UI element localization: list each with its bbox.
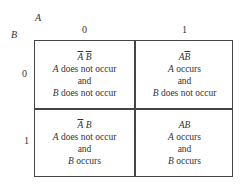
cell-line-2: and [178,75,192,87]
row-header-0: 0 [22,69,27,79]
cell-a1-b1: AB A occurs and B occurs [135,109,234,176]
cell-symbol: A B [78,51,92,63]
column-header-0: 0 [82,25,87,35]
truth-table-grid: A B A does not occur and B does not occu… [34,40,233,177]
cell-line-3: B does not occur [53,87,117,99]
cell-symbol: A B [78,119,92,131]
cell-line-3: B occurs [168,155,201,167]
row-header-1: 1 [24,136,29,146]
cell-line-2: and [178,143,192,155]
column-variable-label: A [35,13,41,23]
cell-line-1: A occurs [168,63,201,75]
row-variable-label: B [11,30,17,40]
cell-line-3: B occurs [68,155,101,167]
cell-a0-b0: A B A does not occur and B does not occu… [35,41,134,108]
cell-a0-b1: A B A does not occur and B occurs [35,109,134,176]
cell-a1-b0: AB A occurs and B does not occur [135,41,234,108]
cell-line-2: and [78,75,92,87]
cell-symbol: AB [179,119,191,131]
cell-line-3: B does not occur [153,87,217,99]
cell-symbol: AB [179,51,191,63]
cell-line-2: and [78,143,92,155]
cell-line-1: A does not occur [53,131,117,143]
cell-line-1: A occurs [168,131,201,143]
column-header-1: 1 [182,25,187,35]
cell-line-1: A does not occur [53,63,117,75]
